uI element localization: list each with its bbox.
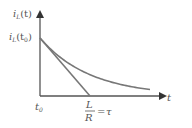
x-axis-label: t xyxy=(167,92,172,103)
tau-symbol: τ xyxy=(106,106,112,117)
tangent-line xyxy=(40,38,90,96)
tau-denominator: R xyxy=(84,112,93,123)
diagram-canvas: iL(t) iL(t0) t t0 L R = τ xyxy=(0,0,192,128)
origin-label: t0 xyxy=(35,101,43,113)
tau-equals: = xyxy=(97,106,105,117)
tau-numerator: L xyxy=(85,99,93,110)
decay-curve xyxy=(40,38,150,90)
initial-value-label: iL(t0) xyxy=(9,31,32,43)
y-axis-label: iL(t) xyxy=(13,8,32,20)
